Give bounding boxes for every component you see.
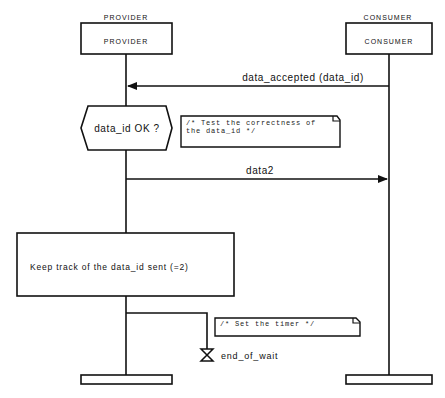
comment-line-2: the data_id */ <box>186 127 256 135</box>
consumer-end-bar <box>346 375 432 384</box>
provider-instance: PROVIDER PROVIDER <box>81 14 172 384</box>
consumer-header-label: CONSUMER <box>364 14 413 21</box>
message-label: data_accepted (data_id) <box>242 72 364 83</box>
message-data2: data2 <box>126 165 387 179</box>
comment-set-timer: /* Set the timer */ <box>215 318 360 336</box>
message-data-accepted: data_accepted (data_id) <box>128 72 389 86</box>
decision-data-id-ok: data_id OK ? <box>81 106 172 150</box>
hourglass-timer-icon <box>201 349 213 361</box>
sequence-diagram: PROVIDER PROVIDER CONSUMER CONSUMER data… <box>0 0 445 398</box>
comment-line-1: /* Set the timer */ <box>220 320 315 328</box>
provider-end-bar <box>81 375 172 384</box>
action-label: Keep track of the data_id sent (=2) <box>30 262 189 272</box>
decision-label: data_id OK ? <box>94 123 160 134</box>
action-keep-track: Keep track of the data_id sent (=2) <box>17 233 234 296</box>
timer-label: end_of_wait <box>221 351 278 361</box>
provider-header-label: PROVIDER <box>104 14 149 21</box>
provider-box-label: PROVIDER <box>104 38 149 45</box>
comment-test-correctness: /* Test the correctness of the data_id *… <box>181 116 340 147</box>
timer-line <box>126 313 207 355</box>
consumer-box-label: CONSUMER <box>365 38 414 45</box>
message-label: data2 <box>246 165 274 176</box>
comment-line-1: /* Test the correctness of <box>186 119 316 127</box>
